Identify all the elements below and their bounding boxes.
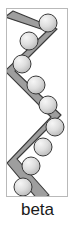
figure-caption: beta	[0, 200, 75, 220]
beta-strand-diagram	[7, 9, 67, 196]
beta-strand-figure: beta	[0, 0, 75, 229]
diagram-frame	[6, 8, 68, 197]
